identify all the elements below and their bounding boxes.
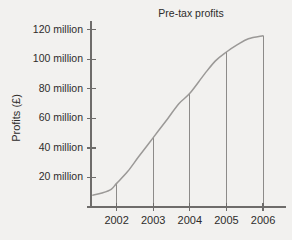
y-tick-label: 100 million <box>33 52 83 64</box>
y-tick-label: 80 million <box>39 82 84 94</box>
y-tick-label: 20 million <box>39 170 84 182</box>
chart-title: Pre-tax profits <box>158 7 223 19</box>
x-tick-label: 2006 <box>251 214 275 226</box>
y-tick-label: 120 million <box>33 23 83 35</box>
y-tick-label: 40 million <box>39 141 84 153</box>
x-tick-label: 2004 <box>178 214 202 226</box>
y-axis-title: Profits (£) <box>10 94 22 142</box>
x-tick-label: 2005 <box>214 214 238 226</box>
x-tick-label: 2003 <box>141 214 165 226</box>
pre-tax-profits-line-chart: Pre-tax profits Profits (£) 20 million40… <box>0 0 292 240</box>
chart-container: Pre-tax profits Profits (£) 20 million40… <box>0 0 292 240</box>
y-tick-label: 60 million <box>39 111 84 123</box>
x-tick-label: 2002 <box>104 214 128 226</box>
